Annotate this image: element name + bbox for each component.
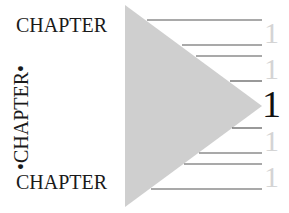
faded-digit-2: 1 [264,54,279,84]
faded-digit-3: 1 [264,126,279,156]
faded-digit-1: 1 [264,18,279,48]
triangle-shape [125,5,262,207]
top-chapter-text: CHAPTER [16,15,107,35]
faded-digit-4: 1 [264,162,279,192]
bottom-chapter-text: CHAPTER [16,172,107,192]
vertical-chapter-text: •CHAPTER• [11,65,31,170]
main-digit: 1 [262,85,281,123]
